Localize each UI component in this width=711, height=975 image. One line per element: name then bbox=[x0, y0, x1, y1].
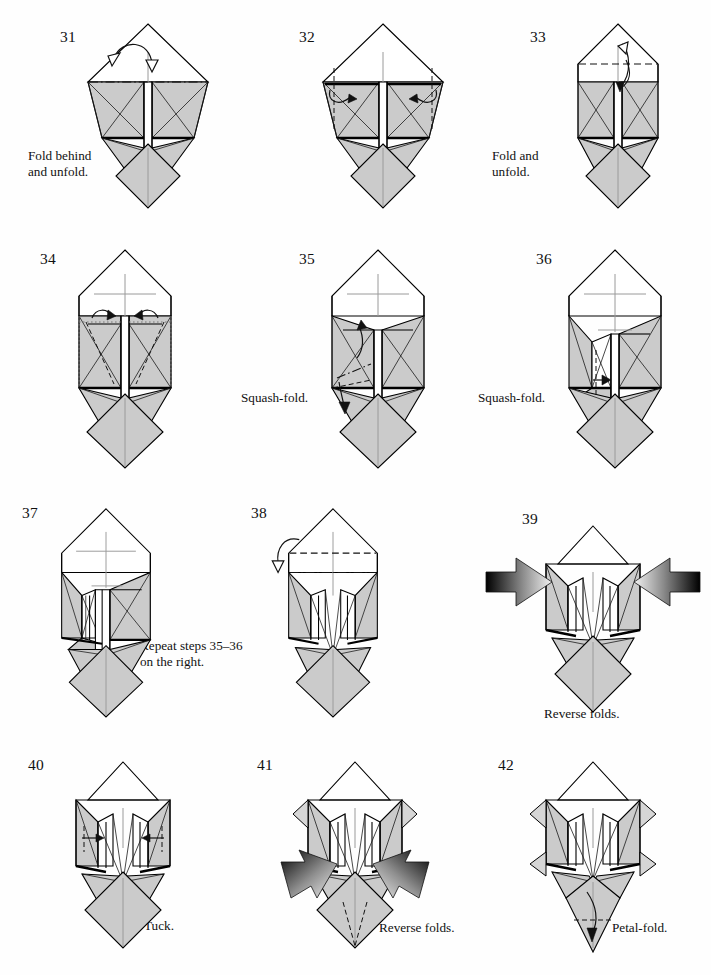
step-figure-36 bbox=[532, 246, 698, 468]
step-cell-40: 40 Tuck. bbox=[0, 742, 237, 975]
paper-body bbox=[76, 762, 170, 948]
paper-body bbox=[62, 509, 151, 717]
step-figure-34 bbox=[42, 246, 208, 468]
paper-body bbox=[289, 509, 378, 717]
step-figure-42 bbox=[504, 752, 682, 962]
step-cell-42: 42 Petal-fold. bbox=[474, 742, 711, 975]
step-cell-34: 34 bbox=[0, 236, 237, 504]
step-cell-32: 32 bbox=[237, 0, 474, 236]
step-cell-39: 39 Reverse folds. bbox=[474, 504, 711, 742]
step-cell-36: 36 Squash-fold. bbox=[474, 236, 711, 504]
step-cell-35: 35 Squash-fold. bbox=[237, 236, 474, 504]
step-figure-35 bbox=[295, 246, 461, 468]
step-cell-41: 41 Reverse folds. bbox=[237, 742, 474, 975]
step-figure-39 bbox=[480, 516, 706, 721]
paper-body bbox=[79, 250, 171, 468]
paper-body bbox=[569, 250, 661, 468]
step-cell-38: 38 bbox=[237, 504, 474, 742]
step-figure-33 bbox=[548, 20, 688, 210]
step-number-31: 31 bbox=[60, 28, 76, 46]
step-figure-40 bbox=[38, 752, 208, 957]
step-grid: 31 Fold behind and unfold. bbox=[0, 0, 711, 975]
step-cell-37: 37 Repeat steps 35–36 on the right. bbox=[0, 504, 237, 742]
step-figure-37 bbox=[26, 500, 186, 720]
push-arrow-right bbox=[634, 558, 700, 606]
step-figure-31 bbox=[78, 20, 218, 210]
paper-body bbox=[546, 526, 640, 712]
step-caption-33: Fold and unfold. bbox=[492, 148, 539, 180]
step-figure-38 bbox=[253, 500, 413, 720]
step-cell-33: 33 Fold and unfold. bbox=[474, 0, 711, 236]
step-figure-41 bbox=[265, 752, 445, 962]
push-arrow-left bbox=[486, 558, 552, 606]
paper-body bbox=[530, 762, 656, 952]
step-number-33: 33 bbox=[530, 28, 546, 46]
step-cell-31: 31 Fold behind and unfold. bbox=[0, 0, 237, 236]
paper-body bbox=[578, 24, 658, 208]
origami-instruction-page: 31 Fold behind and unfold. bbox=[0, 0, 711, 975]
step-figure-32 bbox=[313, 20, 453, 210]
paper-body bbox=[332, 250, 424, 468]
paper-body bbox=[323, 24, 443, 208]
